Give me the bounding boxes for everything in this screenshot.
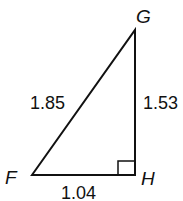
side-label-fh: 1.04 — [61, 183, 96, 201]
right-angle-marker — [118, 161, 135, 175]
vertex-label-g: G — [136, 6, 151, 27]
vertex-label-f: F — [5, 167, 18, 188]
vertex-label-h: H — [141, 168, 155, 189]
triangle-diagram: G F H 1.85 1.53 1.04 — [0, 0, 183, 201]
side-label-gh: 1.53 — [143, 93, 178, 113]
side-label-fg: 1.85 — [30, 93, 65, 113]
